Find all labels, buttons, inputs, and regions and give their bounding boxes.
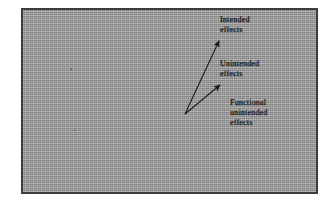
arrow-intended-effects xyxy=(185,41,219,114)
functional-unintended-effects-label: Functional unintended effects xyxy=(230,98,268,128)
intended-effects-label: Intended effects xyxy=(220,15,250,35)
figure-root: Intended effects Unintended effects Func… xyxy=(0,0,336,210)
unintended-effects-label: Unintended effects xyxy=(220,59,259,79)
arrow-unintended-effects xyxy=(185,85,220,114)
arrow-layer xyxy=(23,10,318,194)
diagram-panel: Intended effects Unintended effects Func… xyxy=(21,8,318,194)
